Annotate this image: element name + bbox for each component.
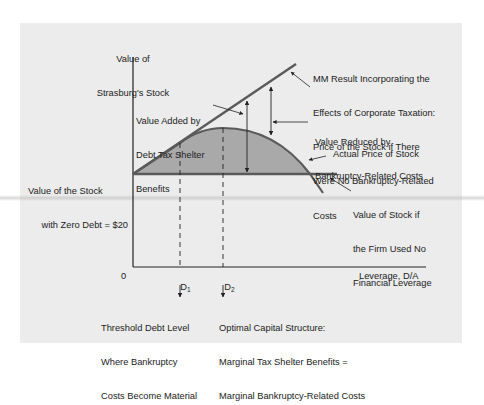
- no-leverage-line-text: Value of Stock if: [353, 210, 432, 221]
- tick-d1-main: D: [180, 282, 187, 292]
- zero-debt-label: Value of the Stock with Zero Debt = $20: [20, 163, 128, 243]
- value-reduced-line-text: Bankruptcy-Related Costs: [315, 171, 423, 182]
- tick-d2-main: D: [224, 282, 231, 292]
- value-added-line-text: Benefits: [136, 184, 205, 195]
- mm-result-line-text: MM Result Incorporating the: [313, 74, 435, 85]
- tick-d2-sub: 2: [231, 286, 235, 293]
- threshold-line-text: Where Bankruptcy: [101, 357, 197, 368]
- value-added-pointer: [213, 105, 243, 114]
- actual-price-label: Actual Price of Stock: [333, 149, 419, 160]
- zero-debt-line-text: with Zero Debt = $20: [20, 220, 128, 231]
- value-reduced-line-text: Value Reduced by: [315, 137, 423, 148]
- threshold-line-text: Threshold Debt Level: [101, 323, 197, 334]
- mm-pointer: [291, 72, 310, 87]
- optimal-line-text: Optimal Capital Structure:: [219, 323, 365, 334]
- threshold-label: Threshold Debt Level Where Bankruptcy Co…: [101, 300, 197, 405]
- x-axis-label: Leverage, D/A: [359, 271, 418, 282]
- value-added-label: Value Added by Debt Tax Shelter Benefits: [136, 93, 205, 207]
- value-added-line-text: Debt Tax Shelter: [136, 150, 205, 161]
- optimal-line-text: Marginal Bankruptcy-Related Costs: [219, 391, 365, 402]
- optimal-line-text: Marginal Tax Shelter Benefits =: [219, 357, 365, 368]
- threshold-line-text: Costs Become Material: [101, 391, 197, 402]
- origin-label: 0: [121, 271, 126, 282]
- tick-d1: D1: [175, 271, 191, 296]
- value-added-line-text: Value Added by: [136, 116, 205, 127]
- optimal-label: Optimal Capital Structure: Marginal Tax …: [219, 300, 365, 405]
- y-axis-label-line: Value of: [80, 54, 186, 65]
- no-leverage-label: Value of Stock if the Firm Used No Finan…: [353, 187, 432, 301]
- zero-debt-line-text: Value of the Stock: [20, 186, 128, 197]
- tick-d2: D2: [219, 271, 235, 296]
- tick-d1-sub: 1: [187, 286, 191, 293]
- no-leverage-line-text: the Firm Used No: [353, 244, 432, 255]
